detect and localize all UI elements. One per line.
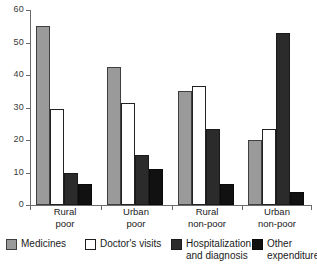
bar-medicines — [248, 140, 262, 205]
y-tick-mark — [26, 10, 30, 11]
legend-item-hospitalization: Hospitalization and diagnosis — [171, 238, 251, 262]
y-axis-line — [30, 10, 31, 206]
y-tick-label: 60 — [14, 4, 24, 15]
bar-medicines — [107, 67, 121, 205]
y-tick-mark — [26, 108, 30, 109]
legend-label: Other expenditures — [267, 238, 317, 262]
bar-doctors-visits — [262, 129, 276, 205]
y-tick-mark — [26, 75, 30, 76]
group-label-line2: non-poor — [234, 218, 317, 230]
bar-hospitalization — [135, 155, 149, 205]
legend-label-line1: Hospitalization — [186, 238, 251, 249]
bar-doctors-visits — [50, 109, 64, 205]
legend-swatch-medicines-icon — [6, 239, 17, 250]
y-tick-label: 50 — [14, 37, 24, 48]
bar-doctors-visits — [121, 103, 135, 205]
bar-other-expenditures — [78, 184, 92, 205]
group-label-line1: Rural — [54, 206, 77, 217]
y-tick-40: 40 — [0, 75, 30, 76]
bar-group-urban-non-poor: Urban non-poor — [248, 10, 317, 205]
y-tick-60: 60 — [0, 10, 30, 11]
y-tick-20: 20 — [0, 140, 30, 141]
bar-medicines — [178, 91, 192, 205]
y-tick-50: 50 — [0, 43, 30, 44]
plot-area: 60 50 40 30 20 10 0 — [0, 0, 317, 228]
group-label-line1: Urban — [264, 206, 290, 217]
y-tick-mark — [26, 173, 30, 174]
legend-item-medicines: Medicines — [6, 238, 66, 250]
bar-hospitalization — [64, 173, 78, 206]
legend-label-line2: expenditures — [267, 250, 317, 262]
y-tick-label: 20 — [14, 134, 24, 145]
legend-swatch-hospitalization-icon — [171, 239, 182, 250]
y-tick-30: 30 — [0, 108, 30, 109]
x-axis-group-label: Urban non-poor — [234, 206, 317, 229]
y-tick-mark — [26, 43, 30, 44]
bar-doctors-visits — [192, 86, 206, 205]
bar-hospitalization — [206, 129, 220, 205]
legend-swatch-other-expenditures-icon — [252, 239, 263, 250]
bar-medicines — [36, 26, 50, 205]
bar-other-expenditures — [290, 192, 304, 205]
y-tick-label: 30 — [14, 102, 24, 113]
y-tick-label: 40 — [14, 69, 24, 80]
legend-label-line2: and diagnosis — [186, 250, 251, 262]
legend-item-other-expenditures: Other expenditures — [252, 238, 317, 262]
group-label-line1: Urban — [123, 206, 149, 217]
legend-label: Hospitalization and diagnosis — [186, 238, 251, 262]
legend-label: Medicines — [21, 238, 66, 250]
bar-chart: 60 50 40 30 20 10 0 — [0, 0, 317, 274]
legend-item-doctors-visits: Doctor's visits — [85, 238, 161, 250]
bar-hospitalization — [276, 33, 290, 205]
bar-other-expenditures — [149, 169, 163, 205]
y-tick-label: 10 — [14, 167, 24, 178]
legend-label-line1: Other — [267, 238, 292, 249]
legend-swatch-doctors-visits-icon — [85, 239, 96, 250]
bar-other-expenditures — [220, 184, 234, 205]
chart-legend: Medicines Doctor's visits Hospitalizatio… — [0, 238, 317, 274]
group-label-line1: Rural — [196, 206, 219, 217]
legend-label: Doctor's visits — [100, 238, 161, 250]
y-tick-mark — [26, 140, 30, 141]
y-tick-10: 10 — [0, 173, 30, 174]
